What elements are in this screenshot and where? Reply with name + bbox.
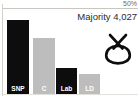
bar-label-ld: LD — [79, 85, 100, 92]
bar-chart-widget: 50% Majority 4,027 SNP C Lab LD — [0, 0, 138, 98]
bar-label-c: C — [33, 85, 55, 92]
bar-label-snp: SNP — [7, 85, 29, 92]
bar-ld[interactable]: LD — [79, 74, 100, 94]
bar-c[interactable]: C — [33, 38, 55, 94]
snp-thistle-logo — [103, 33, 133, 65]
bar-lab[interactable]: Lab — [56, 68, 77, 94]
bar-label-lab: Lab — [56, 85, 77, 92]
bar-snp[interactable]: SNP — [7, 20, 29, 94]
